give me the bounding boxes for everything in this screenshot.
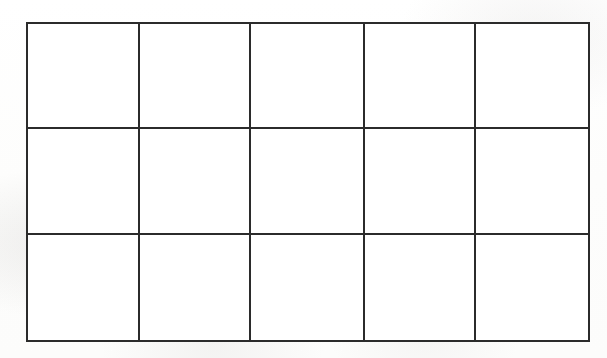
grid-cell-r1c3[interactable]: [250, 23, 364, 128]
table-row: [27, 234, 589, 341]
grid-table-body: [27, 23, 589, 341]
grid-cell-r3c3[interactable]: [250, 234, 364, 341]
grid-cell-r1c1[interactable]: [27, 23, 139, 128]
grid-table: [26, 22, 590, 342]
grid-cell-r2c3[interactable]: [250, 128, 364, 234]
grid-cell-r3c1[interactable]: [27, 234, 139, 341]
grid-cell-r3c2[interactable]: [139, 234, 250, 341]
grid-cell-r3c5[interactable]: [475, 234, 589, 341]
grid-cell-r2c1[interactable]: [27, 128, 139, 234]
grid-cell-r3c4[interactable]: [364, 234, 475, 341]
grid-cell-r2c4[interactable]: [364, 128, 475, 234]
page-root: [0, 0, 607, 358]
grid-cell-r2c5[interactable]: [475, 128, 589, 234]
grid-cell-r1c5[interactable]: [475, 23, 589, 128]
grid-cell-r1c2[interactable]: [139, 23, 250, 128]
table-row: [27, 23, 589, 128]
table-row: [27, 128, 589, 234]
grid-cell-r2c2[interactable]: [139, 128, 250, 234]
grid-cell-r1c4[interactable]: [364, 23, 475, 128]
